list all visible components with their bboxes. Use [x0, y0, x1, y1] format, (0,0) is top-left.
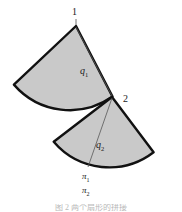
sector-diagram: [0, 0, 182, 212]
label-radius-q2: q2: [96, 140, 104, 153]
figure-caption: 图 2 两个扇形的拼接: [0, 204, 182, 212]
label-angle-pi1: π1: [82, 172, 90, 183]
label-angle-pi2: π2: [82, 186, 90, 197]
label-radius-q1: q1: [80, 66, 88, 79]
label-radius-q1-sub: 1: [85, 71, 88, 78]
label-radius-q2-sub: 2: [101, 145, 104, 152]
sector-one-group: [14, 26, 113, 110]
label-angle-pi1-sub: 1: [87, 177, 90, 183]
label-vertex-1: 1: [72, 7, 77, 17]
label-vertex-2: 2: [123, 94, 128, 104]
label-angle-pi2-sub: 2: [87, 191, 90, 197]
